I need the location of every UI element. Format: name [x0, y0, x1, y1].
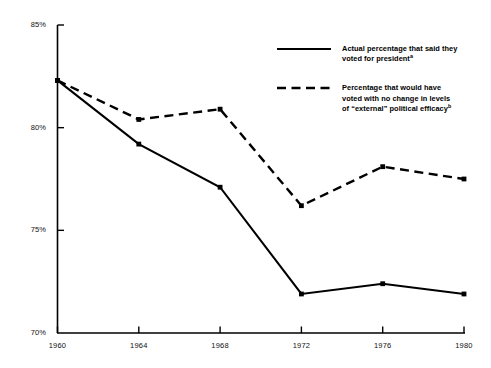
legend-item-actual: Actual percentage that said theyvoted fo…: [276, 44, 490, 64]
data-point-marker: [136, 117, 141, 122]
data-point-marker: [462, 177, 467, 182]
chart-container: 85%80%75%70% 196019641968197219761980 Ac…: [0, 0, 491, 368]
data-point-marker: [218, 185, 223, 190]
y-axis-tick-label: 70%: [20, 329, 46, 337]
data-point-marker: [55, 78, 60, 83]
x-axis-ticks: [58, 327, 465, 334]
y-axis-ticks: [58, 25, 65, 230]
legend-label-hypothetical-line2: voted with no change in levels: [342, 94, 450, 103]
chart-legend: Actual percentage that said theyvoted fo…: [276, 44, 490, 114]
data-point-marker: [462, 292, 467, 297]
y-axis-tick-label: 75%: [20, 226, 46, 234]
data-point-marker: [380, 164, 385, 169]
data-point-marker: [218, 107, 223, 112]
legend-label-actual: Actual percentage that said theyvoted fo…: [342, 44, 490, 64]
x-axis-tick-label: 1964: [119, 342, 159, 350]
data-point-marker: [299, 203, 304, 208]
legend-solid-line-swatch: [276, 44, 332, 54]
legend-label-hypothetical-line3: of “external” political efficacy: [342, 104, 448, 113]
x-axis-tick-label: 1976: [363, 342, 403, 350]
x-axis-tick-label: 1960: [38, 342, 78, 350]
x-axis-tick-label: 1968: [200, 342, 240, 350]
y-axis-tick-label: 80%: [20, 124, 46, 132]
x-axis-tick-label: 1980: [444, 342, 484, 350]
legend-label-actual-superscript: a: [410, 53, 413, 59]
x-axis-tick-label: 1972: [281, 342, 321, 350]
y-axis-tick-label: 85%: [20, 21, 46, 29]
legend-label-hypothetical-superscript: b: [448, 102, 451, 108]
legend-label-hypothetical: Percentage that would havevoted with no …: [342, 83, 490, 114]
legend-label-hypothetical-line1: Percentage that would have: [342, 83, 441, 92]
legend-item-hypothetical: Percentage that would havevoted with no …: [276, 83, 490, 114]
legend-label-actual-line1: Actual percentage that said they: [342, 44, 457, 53]
legend-label-actual-line2: voted for president: [342, 54, 410, 63]
data-point-marker: [299, 292, 304, 297]
data-point-marker: [380, 281, 385, 286]
data-point-marker: [136, 142, 141, 147]
legend-dashed-line-swatch: [276, 83, 332, 93]
